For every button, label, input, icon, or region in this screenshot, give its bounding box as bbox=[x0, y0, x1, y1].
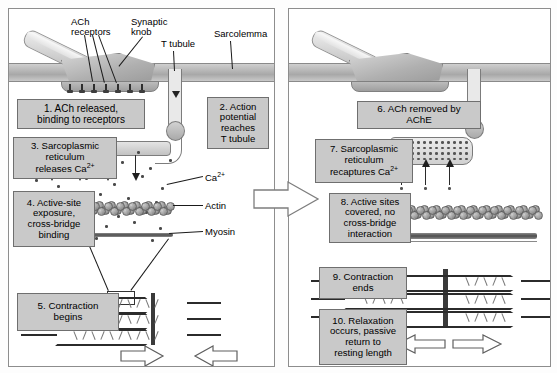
calcium-ion-stored bbox=[465, 141, 468, 144]
calcium-uptake-arrow-icon bbox=[422, 159, 430, 167]
actin-bead bbox=[534, 211, 543, 220]
step-box-10[interactable]: 10. Relaxationoccurs, passivereturn tore… bbox=[319, 309, 407, 365]
contraction-panel: AChreceptorsSynapticknobT tubuleSarcolem… bbox=[8, 8, 275, 367]
step-box-5[interactable]: 5. Contractionbegins bbox=[17, 293, 119, 331]
calcium-ion bbox=[448, 187, 451, 190]
calcium-ion bbox=[151, 239, 154, 242]
label-synaptic-knob: Synapticknob bbox=[131, 17, 167, 38]
calcium-ion-stored bbox=[417, 158, 420, 161]
junctional-folds bbox=[351, 81, 449, 92]
calcium-ion-stored bbox=[465, 152, 468, 155]
calcium-ion bbox=[117, 215, 120, 218]
leader-calcium bbox=[167, 176, 203, 185]
myosin-filament-edge bbox=[401, 241, 537, 242]
calcium-ion-stored bbox=[441, 147, 444, 150]
calcium-uptake-arrow-icon bbox=[446, 159, 454, 167]
calcium-ion-stored bbox=[435, 158, 438, 161]
leader-actin bbox=[173, 205, 203, 206]
calcium-ion bbox=[113, 183, 116, 186]
calcium-ion bbox=[424, 187, 427, 190]
myofibril-strand bbox=[21, 334, 57, 336]
label-t-tubule: T tubule bbox=[161, 39, 195, 49]
calcium-ion bbox=[169, 159, 172, 162]
calcium-ion-stored bbox=[453, 152, 456, 155]
calcium-ion-stored bbox=[459, 158, 462, 161]
calcium-ion-stored bbox=[447, 141, 450, 144]
step-box-8[interactable]: 8. Active sitescovered, nocross-bridgein… bbox=[329, 193, 411, 243]
step-box-3[interactable]: 3. Sarcoplasmicreticulumreleases Ca2+ bbox=[13, 137, 117, 179]
myosin-filament bbox=[401, 233, 537, 239]
calcium-ion-stored bbox=[459, 152, 462, 155]
calcium-release-arrow-icon bbox=[132, 173, 140, 181]
calcium-ion-stored bbox=[423, 147, 426, 150]
leader-t-tubule bbox=[173, 51, 175, 71]
calcium-ion bbox=[35, 179, 38, 182]
calcium-ion bbox=[149, 167, 152, 170]
step-box-9[interactable]: 9. Contractionends bbox=[319, 267, 407, 299]
calcium-ion bbox=[400, 187, 403, 190]
relaxation-panel: 6. ACh removed byAChE7. Sarcoplasmicreti… bbox=[288, 8, 551, 367]
step-box-7[interactable]: 7. Sarcoplasmicreticulumrecaptures Ca2+ bbox=[315, 139, 413, 183]
calcium-ion-stored bbox=[435, 152, 438, 155]
myofibril-strand bbox=[187, 318, 221, 320]
label-actin: Actin bbox=[205, 201, 226, 211]
ach-receptor-foot bbox=[103, 90, 109, 93]
calcium-ion-stored bbox=[435, 141, 438, 144]
step-box-1[interactable]: 1. ACh released,binding to receptors bbox=[17, 99, 145, 129]
step-box-6[interactable]: 6. ACh removed byAChE bbox=[357, 101, 481, 129]
relaxation-double-arrow-icon bbox=[395, 333, 503, 355]
ach-receptor-foot bbox=[67, 90, 73, 93]
calcium-uptake-shaft bbox=[425, 167, 426, 185]
transition-arrow-right-icon bbox=[252, 180, 322, 220]
calcium-ion-stored bbox=[441, 158, 444, 161]
calcium-ion-stored bbox=[423, 152, 426, 155]
label-sarcolemma: Sarcolemma bbox=[214, 29, 267, 39]
calcium-ion-stored bbox=[429, 152, 432, 155]
calcium-ion bbox=[95, 237, 98, 240]
myofibril-strand bbox=[521, 280, 551, 282]
ach-receptor-foot bbox=[127, 90, 133, 93]
myosin-head bbox=[154, 299, 159, 308]
label-myosin: Myosin bbox=[205, 227, 235, 237]
actin-filament bbox=[401, 205, 541, 219]
calcium-ion bbox=[161, 187, 164, 190]
calcium-ion-stored bbox=[417, 141, 420, 144]
calcium-ion-stored bbox=[459, 147, 462, 150]
calcium-uptake-shaft bbox=[449, 167, 450, 185]
step-box-2[interactable]: 2. ActionpotentialreachesT tubule bbox=[207, 97, 269, 149]
actin-bead bbox=[166, 202, 175, 211]
calcium-ion bbox=[99, 193, 102, 196]
step-box-4[interactable]: 4. Active-siteexposure,cross-bridgebindi… bbox=[13, 191, 95, 247]
calcium-ion-stored bbox=[429, 147, 432, 150]
ach-receptor-foot bbox=[115, 90, 121, 93]
calcium-ion-stored bbox=[417, 147, 420, 150]
myosin-head bbox=[154, 331, 159, 340]
calcium-ion bbox=[137, 151, 140, 154]
ach-receptor-foot bbox=[139, 90, 145, 93]
calcium-ion bbox=[159, 227, 162, 230]
ach-receptor-foot bbox=[91, 90, 97, 93]
myofibril-strand bbox=[187, 334, 221, 336]
calcium-ion-stored bbox=[447, 147, 450, 150]
calcium-ion-stored bbox=[447, 152, 450, 155]
calcium-ion-stored bbox=[465, 158, 468, 161]
action-potential-arrow-icon bbox=[172, 91, 180, 98]
myofibril-strand bbox=[187, 302, 221, 304]
zoom-cone-right bbox=[130, 238, 169, 291]
calcium-ion bbox=[57, 185, 60, 188]
leader-myosin bbox=[169, 231, 203, 234]
calcium-ion bbox=[121, 161, 124, 164]
calcium-ion-stored bbox=[453, 147, 456, 150]
calcium-ion bbox=[133, 221, 136, 224]
calcium-ion-stored bbox=[429, 141, 432, 144]
calcium-ion-stored bbox=[453, 141, 456, 144]
calcium-ion-stored bbox=[459, 141, 462, 144]
calcium-ion bbox=[105, 225, 108, 228]
myofibril-strand bbox=[521, 316, 551, 318]
calcium-ion bbox=[141, 175, 144, 178]
myosin-head bbox=[154, 315, 159, 324]
contraction-arrow-left-group bbox=[119, 345, 239, 367]
calcium-ion-stored bbox=[465, 147, 468, 150]
calcium-ion-stored bbox=[441, 141, 444, 144]
calcium-ion-stored bbox=[435, 147, 438, 150]
